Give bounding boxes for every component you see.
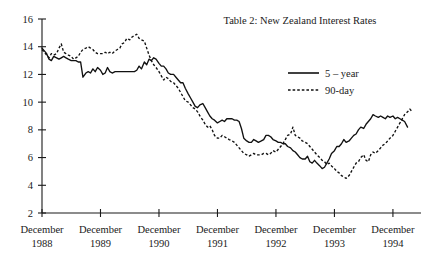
y-tick-label: 12	[23, 69, 34, 80]
x-tick-label-month: December	[79, 224, 123, 235]
x-tick-label-year: 1990	[148, 238, 169, 249]
x-tick-label-year: 1991	[207, 238, 228, 249]
legend-label-5-year: 5 – year	[325, 68, 359, 79]
legend-label-90-day: 90-day	[325, 85, 355, 96]
x-tick-label-month: December	[371, 224, 415, 235]
chart-page: Table 2: New Zealand Interest Rates 2468…	[0, 0, 436, 264]
y-tick-label: 16	[23, 14, 34, 25]
x-tick-label-month: December	[313, 224, 357, 235]
y-tick-label: 6	[28, 152, 33, 163]
series-line-5-year	[42, 48, 408, 169]
y-tick-label: 14	[23, 41, 34, 52]
x-tick-label-month: December	[20, 224, 64, 235]
chart-title-group: Table 2: New Zealand Interest Rates	[224, 15, 377, 26]
page-title: Table 2: New Zealand Interest Rates	[224, 15, 377, 26]
series-line-90-day	[42, 34, 412, 178]
y-tick-label: 8	[28, 124, 33, 135]
x-tick-label-year: 1992	[265, 238, 286, 249]
y-tick-label: 4	[28, 180, 34, 191]
series-group	[42, 34, 412, 178]
y-tick-label: 2	[28, 208, 33, 219]
x-tick-label-month: December	[254, 224, 298, 235]
x-tick-label-year: 1993	[324, 238, 345, 249]
x-tick-label-month: December	[137, 224, 181, 235]
interest-rates-line-chart: Table 2: New Zealand Interest Rates 2468…	[0, 0, 436, 264]
chart-legend: 5 – year 90-day	[288, 68, 359, 96]
x-tick-label-year: 1994	[382, 238, 404, 249]
x-tick-group: December1988December1989December1990Dece…	[20, 209, 415, 249]
x-tick-label-month: December	[196, 224, 240, 235]
x-tick-label-year: 1988	[32, 238, 53, 249]
y-tick-label: 10	[23, 97, 34, 108]
x-tick-label-year: 1989	[90, 238, 111, 249]
